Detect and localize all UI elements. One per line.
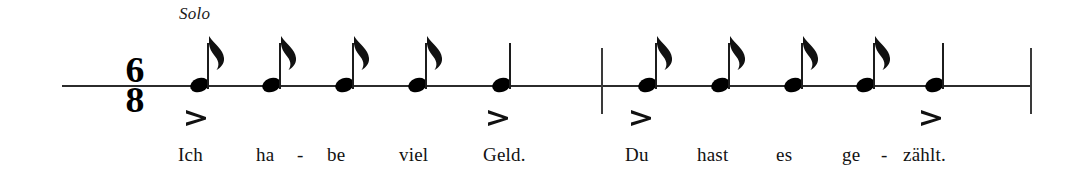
lyric-syllable: Ich	[178, 144, 203, 166]
music-notation-sheet: Solo 6 8 Ichha-bevielGeld.Duhastesge-zäh…	[0, 0, 1089, 179]
accent-icon	[487, 110, 509, 126]
lyric-syllable: hast	[697, 144, 728, 166]
lyric-syllable: ha	[256, 144, 274, 166]
note-eighth	[856, 78, 894, 94]
eighth-flag-icon	[426, 36, 444, 70]
accent-icon	[920, 110, 942, 126]
eighth-flag-icon	[874, 36, 892, 70]
lyric-syllable: Du	[625, 144, 649, 166]
note-quarter	[925, 78, 963, 94]
eighth-flag-icon	[729, 36, 747, 70]
note-eighth	[408, 78, 446, 94]
lyric-syllable: ge	[842, 144, 860, 166]
lyric-syllable: viel	[399, 144, 428, 166]
time-signature: 6 8	[118, 53, 152, 119]
note-eighth	[335, 78, 373, 94]
note-quarter	[492, 78, 530, 94]
note-eighth	[262, 78, 300, 94]
lyric-syllable: es	[776, 144, 792, 166]
performance-marking-solo: Solo	[179, 4, 210, 24]
lyric-syllable: be	[327, 144, 345, 166]
lyric-syllable: Geld.	[483, 144, 526, 166]
barline	[1030, 48, 1032, 114]
note-stem	[942, 43, 944, 89]
accent-icon	[185, 110, 207, 126]
accent-icon	[630, 110, 652, 126]
eighth-flag-icon	[353, 36, 371, 70]
barline	[601, 48, 603, 114]
eighth-flag-icon	[656, 36, 674, 70]
eighth-flag-icon	[802, 36, 820, 70]
eighth-flag-icon	[208, 36, 226, 70]
time-signature-denominator: 8	[126, 86, 145, 116]
lyric-hyphen: -	[881, 144, 888, 166]
note-eighth	[711, 78, 749, 94]
note-eighth	[190, 78, 228, 94]
eighth-flag-icon	[280, 36, 298, 70]
note-eighth	[638, 78, 676, 94]
note-stem	[509, 43, 511, 89]
lyric-syllable: zählt.	[903, 144, 946, 166]
note-eighth	[784, 78, 822, 94]
lyric-hyphen: -	[297, 144, 304, 166]
